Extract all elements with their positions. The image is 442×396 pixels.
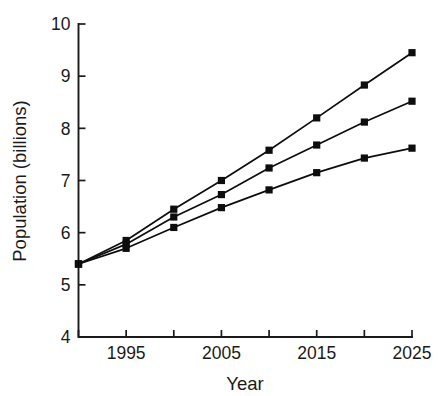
x-tick-label-1995: 1995: [107, 343, 146, 363]
data-point-medium-projection-2025: [408, 98, 415, 105]
y-tick-label-4: 4: [61, 327, 71, 347]
data-point-medium-projection-2000: [170, 213, 177, 220]
data-point-medium-projection-2015: [313, 141, 320, 148]
y-tick-label-10: 10: [51, 14, 71, 34]
data-point-low-projection-2000: [170, 224, 177, 231]
data-point-low-projection-2025: [408, 145, 415, 152]
y-tick-label-9: 9: [61, 66, 71, 86]
data-point-high-projection-2015: [313, 114, 320, 121]
chart-canvas: 45678910 1995200520152025 Year Populatio…: [0, 0, 442, 396]
x-tick-label-2025: 2025: [393, 343, 432, 363]
data-point-high-projection-2010: [265, 147, 272, 154]
data-point-low-projection-2010: [265, 186, 272, 193]
x-axis-ticks: [79, 330, 413, 337]
chart-figure: 45678910 1995200520152025 Year Populatio…: [0, 0, 442, 396]
data-point-high-projection-2000: [170, 206, 177, 213]
y-tick-label-5: 5: [61, 275, 71, 295]
data-point-low-projection-1995: [123, 245, 130, 252]
data-point-medium-projection-2020: [361, 118, 368, 125]
y-axis-ticks: [79, 24, 86, 337]
y-tick-label-8: 8: [61, 119, 71, 139]
data-point-low-projection-2020: [361, 154, 368, 161]
x-axis-tick-labels: 1995200520152025: [107, 343, 432, 363]
data-point-low-projection-1990: [75, 260, 82, 267]
data-point-medium-projection-2010: [265, 164, 272, 171]
y-axis-title: Population (billions): [9, 100, 30, 261]
data-point-medium-projection-2005: [218, 191, 225, 198]
y-axis-tick-labels: 45678910: [51, 14, 71, 347]
y-tick-label-7: 7: [61, 171, 71, 191]
data-point-high-projection-2025: [408, 49, 415, 56]
x-axis-title: Year: [226, 373, 263, 394]
data-markers-group: [75, 49, 416, 267]
x-tick-label-2015: 2015: [297, 343, 336, 363]
data-point-low-projection-2005: [218, 204, 225, 211]
data-point-high-projection-2020: [361, 81, 368, 88]
data-point-low-projection-2015: [313, 169, 320, 176]
data-point-high-projection-2005: [218, 177, 225, 184]
x-tick-label-2005: 2005: [202, 343, 241, 363]
y-tick-label-6: 6: [61, 223, 71, 243]
